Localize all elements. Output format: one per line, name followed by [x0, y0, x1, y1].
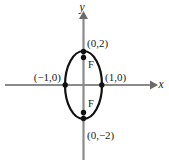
label-top-vertex: (0,2) [87, 37, 108, 50]
point-right-covertex [99, 82, 104, 87]
point-top-vertex [81, 49, 86, 54]
figure-canvas: (0,2) (0,−2) (−1,0) (1,0) F F x y [0, 0, 169, 162]
label-right-covertex: (1,0) [105, 71, 126, 84]
point-upper-focus [81, 55, 86, 60]
point-lower-focus [81, 110, 86, 115]
x-axis-arrowhead [150, 80, 158, 89]
label-x-axis: x [157, 78, 164, 90]
label-bottom-vertex: (0,−2) [87, 129, 115, 142]
point-bottom-vertex [81, 116, 86, 121]
ellipse-figure: (0,2) (0,−2) (−1,0) (1,0) F F x y [0, 0, 169, 162]
point-left-covertex [62, 82, 67, 87]
label-upper-focus: F [88, 59, 94, 70]
label-left-covertex: (−1,0) [34, 71, 62, 84]
label-y-axis: y [78, 1, 85, 14]
label-lower-focus: F [88, 98, 94, 109]
